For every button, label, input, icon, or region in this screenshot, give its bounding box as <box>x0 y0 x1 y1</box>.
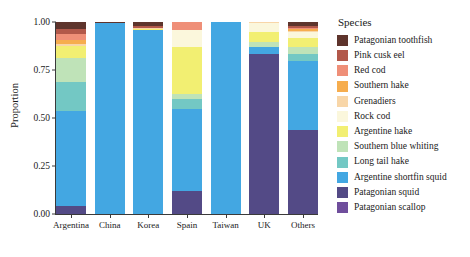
bar-segment[interactable] <box>288 54 318 61</box>
bar-segment[interactable] <box>172 30 202 47</box>
bar-segment[interactable] <box>172 99 202 109</box>
bar-segment[interactable] <box>288 38 318 47</box>
stacked-bar-chart-figure: Proportion 0.000.250.500.751.00 Argentin… <box>0 0 470 257</box>
bar-segment[interactable] <box>288 130 318 214</box>
legend-item[interactable]: Patagonian toothfish <box>337 33 467 48</box>
x-axis-tick-mark <box>71 214 72 218</box>
legend-item[interactable]: Southern hake <box>337 79 467 94</box>
legend-color-swatch <box>337 96 348 107</box>
x-axis-tick-label: Spain <box>177 220 198 230</box>
legend-item-label: Pink cusk eel <box>354 51 405 61</box>
x-axis-tick-mark <box>264 214 265 218</box>
x-axis-tick-label: UK <box>258 220 271 230</box>
legend-item[interactable]: Patagonian squid <box>337 185 467 200</box>
legend-item-label: Patagonian scallop <box>354 203 426 213</box>
bar-group: ArgentinaChinaKoreaSpainTaiwanUKOthers <box>56 22 318 214</box>
legend-items: Patagonian toothfishPink cusk eelRed cod… <box>337 33 467 215</box>
legend-item-label: Southern blue whiting <box>354 142 438 152</box>
legend-color-swatch <box>337 187 348 198</box>
x-axis-tick-label: China <box>99 220 121 230</box>
x-axis-tick-label: Argentina <box>53 220 89 230</box>
x-axis-tick-label: Others <box>291 220 315 230</box>
bar-segment[interactable] <box>288 61 318 130</box>
legend-item-label: Argentine hake <box>354 127 412 137</box>
bar-segment[interactable] <box>172 109 202 192</box>
x-axis-tick-mark <box>187 214 188 218</box>
bar-column[interactable]: China <box>95 22 125 214</box>
bar-segment[interactable] <box>95 23 125 214</box>
bar-column[interactable]: UK <box>249 22 279 214</box>
legend-item-label: Southern hake <box>354 81 409 91</box>
bar-segment[interactable] <box>172 47 202 94</box>
bar-segment[interactable] <box>56 206 86 214</box>
bar-segment[interactable] <box>249 23 279 32</box>
y-axis-title: Proportion <box>6 0 22 210</box>
legend-item[interactable]: Red cod <box>337 63 467 78</box>
bar-segment[interactable] <box>249 32 279 42</box>
bar-segment[interactable] <box>172 22 202 30</box>
bar-column[interactable]: Taiwan <box>211 22 241 214</box>
bar-segment[interactable] <box>56 58 86 82</box>
bar-segment[interactable] <box>249 54 279 215</box>
bar-segment[interactable] <box>56 22 86 29</box>
bar-segment[interactable] <box>211 22 241 214</box>
x-axis-tick-mark <box>110 214 111 218</box>
plot-area: 0.000.250.500.751.00 ArgentinaChinaKorea… <box>56 22 318 214</box>
legend-item[interactable]: Rock cod <box>337 109 467 124</box>
legend-color-swatch <box>337 157 348 168</box>
legend-item-label: Grenadiers <box>354 97 396 107</box>
legend-color-swatch <box>337 50 348 61</box>
bar-column[interactable]: Korea <box>133 22 163 214</box>
legend-color-swatch <box>337 65 348 76</box>
legend-color-swatch <box>337 202 348 213</box>
legend-item[interactable]: Argentine shortfin squid <box>337 170 467 185</box>
legend-item[interactable]: Patagonian scallop <box>337 200 467 215</box>
bar-column[interactable]: Spain <box>172 22 202 214</box>
legend-item-label: Rock cod <box>354 112 390 122</box>
x-axis-tick-mark <box>226 214 227 218</box>
legend-item[interactable]: Southern blue whiting <box>337 139 467 154</box>
legend-item-label: Patagonian squid <box>354 188 419 198</box>
x-axis-tick-mark <box>148 214 149 218</box>
legend-item[interactable]: Grenadiers <box>337 94 467 109</box>
bar-segment[interactable] <box>133 30 163 214</box>
legend-item-label: Patagonian toothfish <box>354 36 432 46</box>
legend-color-swatch <box>337 111 348 122</box>
legend-color-swatch <box>337 141 348 152</box>
legend-item[interactable]: Pink cusk eel <box>337 48 467 63</box>
legend-color-swatch <box>337 172 348 183</box>
bar-column[interactable]: Argentina <box>56 22 86 214</box>
bar-segment[interactable] <box>288 47 318 54</box>
legend-title: Species <box>337 16 467 28</box>
legend-item-label: Argentine shortfin squid <box>354 173 447 183</box>
bar-segment[interactable] <box>56 46 86 58</box>
legend-color-swatch <box>337 126 348 137</box>
bar-column[interactable]: Others <box>288 22 318 214</box>
legend-item-label: Red cod <box>354 66 385 76</box>
legend-item[interactable]: Long tail hake <box>337 155 467 170</box>
legend-color-swatch <box>337 35 348 46</box>
legend-color-swatch <box>337 81 348 92</box>
legend-item-label: Long tail hake <box>354 157 409 167</box>
bar-segment[interactable] <box>56 82 86 112</box>
bar-segment[interactable] <box>172 191 202 214</box>
x-axis-tick-label: Korea <box>137 220 159 230</box>
x-axis-tick-mark <box>303 214 304 218</box>
legend-item[interactable]: Argentine hake <box>337 124 467 139</box>
x-axis-tick-label: Taiwan <box>212 220 238 230</box>
legend: Species Patagonian toothfishPink cusk ee… <box>337 16 467 215</box>
bar-segment[interactable] <box>56 111 86 206</box>
